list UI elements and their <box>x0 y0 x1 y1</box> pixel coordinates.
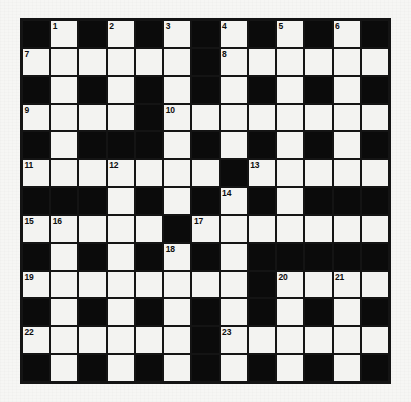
crossword-letter-cell[interactable] <box>107 354 135 382</box>
crossword-letter-cell[interactable] <box>333 159 361 187</box>
crossword-letter-cell[interactable]: 1 <box>50 20 78 48</box>
crossword-letter-cell[interactable] <box>163 131 191 159</box>
crossword-letter-cell[interactable] <box>333 76 361 104</box>
crossword-letter-cell[interactable] <box>276 131 304 159</box>
crossword-letter-cell[interactable] <box>107 243 135 271</box>
crossword-letter-cell[interactable] <box>135 48 163 76</box>
crossword-letter-cell[interactable] <box>50 243 78 271</box>
crossword-letter-cell[interactable] <box>107 298 135 326</box>
crossword-letter-cell[interactable] <box>163 187 191 215</box>
crossword-letter-cell[interactable] <box>333 354 361 382</box>
crossword-letter-cell[interactable] <box>333 215 361 243</box>
crossword-letter-cell[interactable] <box>107 271 135 299</box>
crossword-letter-cell[interactable] <box>78 326 106 354</box>
crossword-letter-cell[interactable] <box>191 271 219 299</box>
crossword-letter-cell[interactable] <box>163 159 191 187</box>
crossword-letter-cell[interactable] <box>50 159 78 187</box>
crossword-letter-cell[interactable]: 17 <box>191 215 219 243</box>
crossword-letter-cell[interactable] <box>333 104 361 132</box>
crossword-letter-cell[interactable] <box>361 104 389 132</box>
crossword-letter-cell[interactable] <box>135 215 163 243</box>
crossword-letter-cell[interactable] <box>304 159 332 187</box>
crossword-letter-cell[interactable]: 10 <box>163 104 191 132</box>
crossword-letter-cell[interactable] <box>276 215 304 243</box>
crossword-letter-cell[interactable]: 16 <box>50 215 78 243</box>
crossword-letter-cell[interactable] <box>276 326 304 354</box>
crossword-letter-cell[interactable] <box>191 104 219 132</box>
crossword-letter-cell[interactable] <box>304 326 332 354</box>
crossword-letter-cell[interactable]: 22 <box>22 326 50 354</box>
crossword-letter-cell[interactable]: 8 <box>220 48 248 76</box>
crossword-letter-cell[interactable]: 4 <box>220 20 248 48</box>
crossword-letter-cell[interactable]: 19 <box>22 271 50 299</box>
crossword-letter-cell[interactable] <box>163 326 191 354</box>
crossword-letter-cell[interactable] <box>107 215 135 243</box>
crossword-letter-cell[interactable] <box>220 354 248 382</box>
crossword-letter-cell[interactable] <box>78 104 106 132</box>
crossword-letter-cell[interactable] <box>78 48 106 76</box>
crossword-letter-cell[interactable] <box>135 326 163 354</box>
crossword-letter-cell[interactable] <box>107 187 135 215</box>
crossword-letter-cell[interactable]: 12 <box>107 159 135 187</box>
crossword-letter-cell[interactable]: 18 <box>163 243 191 271</box>
crossword-letter-cell[interactable] <box>333 131 361 159</box>
crossword-letter-cell[interactable]: 23 <box>220 326 248 354</box>
crossword-letter-cell[interactable] <box>361 48 389 76</box>
crossword-letter-cell[interactable] <box>163 271 191 299</box>
crossword-letter-cell[interactable] <box>361 159 389 187</box>
crossword-letter-cell[interactable] <box>304 271 332 299</box>
crossword-letter-cell[interactable] <box>220 243 248 271</box>
crossword-letter-cell[interactable] <box>304 104 332 132</box>
crossword-letter-cell[interactable] <box>50 76 78 104</box>
crossword-letter-cell[interactable] <box>50 298 78 326</box>
crossword-letter-cell[interactable] <box>248 215 276 243</box>
crossword-letter-cell[interactable] <box>276 76 304 104</box>
crossword-letter-cell[interactable]: 11 <box>22 159 50 187</box>
crossword-letter-cell[interactable] <box>220 271 248 299</box>
crossword-letter-cell[interactable]: 2 <box>107 20 135 48</box>
crossword-letter-cell[interactable] <box>361 215 389 243</box>
crossword-letter-cell[interactable] <box>107 104 135 132</box>
crossword-letter-cell[interactable] <box>276 159 304 187</box>
crossword-letter-cell[interactable] <box>333 48 361 76</box>
crossword-letter-cell[interactable] <box>333 298 361 326</box>
crossword-letter-cell[interactable] <box>220 76 248 104</box>
crossword-letter-cell[interactable]: 7 <box>22 48 50 76</box>
crossword-letter-cell[interactable] <box>276 48 304 76</box>
crossword-letter-cell[interactable] <box>276 298 304 326</box>
crossword-letter-cell[interactable] <box>163 48 191 76</box>
crossword-letter-cell[interactable] <box>304 48 332 76</box>
crossword-letter-cell[interactable] <box>50 271 78 299</box>
crossword-letter-cell[interactable] <box>248 326 276 354</box>
crossword-letter-cell[interactable]: 6 <box>333 20 361 48</box>
crossword-letter-cell[interactable] <box>50 131 78 159</box>
crossword-letter-cell[interactable] <box>50 104 78 132</box>
crossword-letter-cell[interactable] <box>248 48 276 76</box>
crossword-letter-cell[interactable] <box>107 76 135 104</box>
crossword-letter-cell[interactable]: 14 <box>220 187 248 215</box>
crossword-letter-cell[interactable] <box>107 48 135 76</box>
crossword-letter-cell[interactable] <box>248 104 276 132</box>
crossword-letter-cell[interactable] <box>50 326 78 354</box>
crossword-grid[interactable]: 1234567891011121314151617181920212223 <box>20 18 391 384</box>
crossword-letter-cell[interactable]: 9 <box>22 104 50 132</box>
crossword-letter-cell[interactable] <box>50 48 78 76</box>
crossword-letter-cell[interactable] <box>163 76 191 104</box>
crossword-letter-cell[interactable]: 5 <box>276 20 304 48</box>
crossword-letter-cell[interactable] <box>191 159 219 187</box>
crossword-letter-cell[interactable] <box>333 326 361 354</box>
crossword-letter-cell[interactable] <box>50 354 78 382</box>
crossword-letter-cell[interactable] <box>78 159 106 187</box>
crossword-letter-cell[interactable] <box>135 271 163 299</box>
crossword-letter-cell[interactable]: 3 <box>163 20 191 48</box>
crossword-letter-cell[interactable] <box>135 159 163 187</box>
crossword-letter-cell[interactable] <box>220 131 248 159</box>
crossword-letter-cell[interactable]: 13 <box>248 159 276 187</box>
crossword-letter-cell[interactable]: 15 <box>22 215 50 243</box>
crossword-letter-cell[interactable] <box>78 215 106 243</box>
crossword-letter-cell[interactable] <box>78 271 106 299</box>
crossword-letter-cell[interactable] <box>220 215 248 243</box>
crossword-letter-cell[interactable] <box>276 354 304 382</box>
crossword-letter-cell[interactable]: 21 <box>333 271 361 299</box>
crossword-letter-cell[interactable] <box>107 326 135 354</box>
